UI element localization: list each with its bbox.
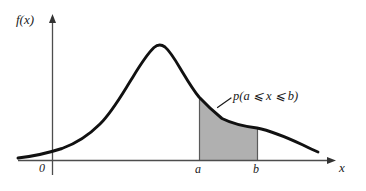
origin-label: 0 [39, 162, 45, 174]
x-axis-arrowhead [327, 157, 336, 164]
tick-label-a: a [195, 163, 201, 175]
x-axis-label: x [339, 161, 345, 174]
annotation-leader-line [218, 98, 232, 108]
density-curve-figure: f(x) x 0 a b p(a ⩽ x ⩽ b) [0, 0, 366, 191]
figure-canvas [0, 0, 366, 191]
probability-annotation: p(a ⩽ x ⩽ b) [233, 90, 298, 103]
tick-label-b: b [253, 163, 259, 175]
y-axis-arrowhead [49, 14, 56, 23]
y-axis-label: f(x) [16, 13, 34, 26]
